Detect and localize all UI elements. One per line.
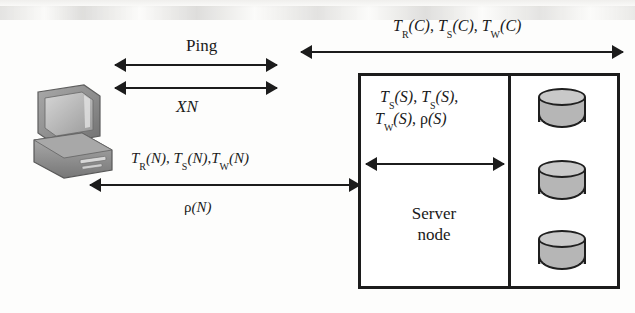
client-workstation-icon xyxy=(24,78,128,186)
ping-arrow-head-right xyxy=(266,58,278,72)
ping-label: Ping xyxy=(186,36,217,55)
xn-arrow-head-left xyxy=(114,81,126,95)
client-metrics-arrow-head-left xyxy=(300,45,312,59)
diagram-canvas: Ping XN TR(N), TS(N),TW(N) ρ(N) TR(C), T… xyxy=(0,0,635,313)
ping-arrow xyxy=(115,58,277,72)
disk-1 xyxy=(538,88,586,128)
server-internal-arrow-shaft xyxy=(366,163,504,165)
xn-arrow-head-right xyxy=(266,81,278,95)
network-arrow-head-left xyxy=(89,178,101,192)
disk-2 xyxy=(538,160,586,200)
disk-2-top xyxy=(538,160,586,178)
ping-arrow-head-left xyxy=(114,58,126,72)
disk-3-bottom xyxy=(538,254,586,270)
client-metrics-label: TR(C), TS(C), TW(C) xyxy=(393,17,521,35)
server-node-caption-line2: node xyxy=(366,224,502,245)
xn-arrow-shaft xyxy=(115,87,277,89)
scan-artifact-bleed xyxy=(0,6,635,20)
network-rho-label: ρ(N) xyxy=(184,199,212,216)
client-metrics-arrow-head-right xyxy=(612,45,624,59)
scan-artifact-top xyxy=(0,0,635,8)
server-metrics-line1: TS(S), TS(S), xyxy=(380,88,458,106)
client-metrics-arrow xyxy=(301,45,623,59)
computer-svg xyxy=(24,78,128,182)
ping-arrow-shaft xyxy=(115,64,277,66)
server-internal-arrow xyxy=(366,157,504,171)
network-metrics-line1: TR(N), TS(N),TW(N) xyxy=(131,150,249,167)
network-arrow xyxy=(90,178,360,192)
client-metrics-arrow-shaft xyxy=(301,51,623,53)
server-disk-bay-divider xyxy=(508,73,511,289)
server-internal-arrow-head-left xyxy=(365,157,377,171)
disk-1-top xyxy=(538,88,586,106)
disk-1-bottom xyxy=(538,112,586,128)
network-arrow-shaft xyxy=(90,184,360,186)
server-metrics-line2: TW(S), ρ(S) xyxy=(375,110,447,128)
server-node-caption: Server node xyxy=(366,203,502,246)
server-node-caption-line1: Server xyxy=(366,203,502,224)
disk-3-top xyxy=(538,230,586,248)
server-internal-arrow-head-right xyxy=(493,157,505,171)
xn-label: XN xyxy=(176,97,198,116)
xn-arrow xyxy=(115,81,277,95)
disk-3 xyxy=(538,230,586,270)
disk-2-bottom xyxy=(538,184,586,200)
